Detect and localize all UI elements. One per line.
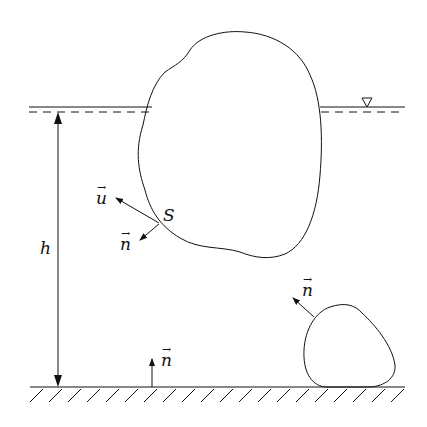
surface-label: S	[163, 207, 175, 224]
vector-arrow-icon: →	[303, 274, 312, 285]
vector-arrow-icon: →	[121, 228, 130, 239]
depth-arrow-bottom-icon	[54, 375, 62, 387]
vector-arrow-icon: →	[97, 182, 106, 193]
depth-arrow-top-icon	[54, 112, 62, 124]
velocity-label: u →	[96, 190, 107, 207]
surface-normal-vector	[140, 224, 159, 240]
bottom-rock	[304, 305, 395, 387]
rock-normal-label: n →	[302, 282, 313, 299]
free-surface-marker-icon	[362, 98, 372, 107]
surface-normal-label: n →	[120, 236, 131, 253]
seabed-hatching	[30, 389, 404, 402]
diagram-svg	[0, 0, 427, 427]
vector-arrow-icon: →	[162, 344, 171, 355]
diagram-canvas: h S u → n → n → n →	[0, 0, 427, 427]
depth-label: h	[40, 240, 51, 257]
rock-normal-vector	[293, 298, 314, 317]
bottom-normal-label: n →	[161, 352, 172, 369]
